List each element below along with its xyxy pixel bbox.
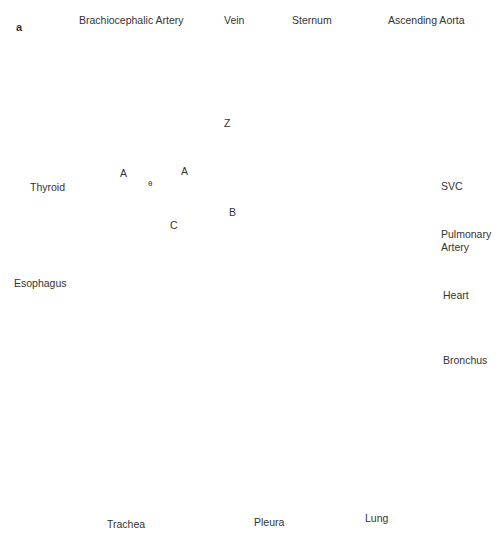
bone	[113, 334, 121, 342]
skin-bottom	[78, 400, 432, 470]
leader-lines	[65, 30, 441, 516]
bone	[257, 373, 297, 397]
chest-wall-muscle	[210, 90, 432, 190]
thyroid	[85, 196, 138, 216]
bone	[302, 376, 342, 404]
bone	[254, 406, 290, 430]
bone	[316, 411, 356, 439]
vessel	[393, 283, 409, 301]
ascending-aorta	[286, 118, 432, 200]
label-heart: Heart	[443, 289, 469, 301]
neck-muscle	[78, 220, 255, 300]
fascia-line	[150, 400, 432, 440]
brachiocephalic-artery	[196, 204, 220, 224]
vein	[249, 178, 267, 202]
pleura	[284, 310, 432, 345]
label-theta: θ	[148, 178, 152, 190]
label-thyroid: Thyroid	[30, 181, 65, 193]
anatomy-diagram	[0, 0, 500, 533]
label-c: C	[170, 219, 178, 231]
heart	[388, 232, 432, 295]
label-sternum: Sternum	[292, 14, 332, 26]
vessel	[277, 291, 299, 313]
label-svc: SVC	[441, 180, 463, 192]
esophagus	[78, 264, 148, 280]
label-ascending-aorta: Ascending Aorta	[388, 14, 464, 26]
label-esophagus: Esophagus	[14, 277, 67, 289]
small-vessel	[132, 196, 142, 204]
small-vessel	[96, 256, 104, 264]
label-pleura: Pleura	[254, 516, 284, 528]
label-z-axis: Z	[224, 117, 230, 129]
panel-label: a	[16, 21, 22, 33]
bronchus	[323, 282, 383, 308]
label-m: M	[230, 259, 239, 271]
label-trachea: Trachea	[107, 518, 145, 530]
label-b: B	[229, 206, 236, 218]
back-muscle	[78, 385, 432, 466]
bone	[383, 406, 427, 434]
bone	[360, 364, 400, 400]
label-bronchus: Bronchus	[443, 354, 487, 366]
label-brachiocephalic-artery: Brachiocephalic Artery	[79, 14, 183, 26]
label-lung: Lung	[365, 512, 388, 524]
bone	[192, 387, 228, 413]
rib-bone	[369, 100, 420, 122]
soft-tissue	[78, 52, 432, 470]
bone	[123, 340, 163, 360]
back-muscle-upper	[78, 378, 180, 401]
bone	[78, 310, 114, 334]
label-pulmonary-artery-2: Artery	[441, 241, 469, 253]
bone	[78, 337, 114, 361]
pulmonary-artery	[324, 251, 380, 275]
needle	[82, 125, 228, 262]
bone	[207, 345, 251, 373]
label-vein: Vein	[224, 14, 244, 26]
svc	[240, 190, 432, 245]
pulmonary-artery-lumen	[332, 255, 372, 271]
target-m	[209, 246, 247, 278]
label-pulmonary-artery-1: Pulmonary	[441, 228, 491, 240]
diagram-frame	[78, 42, 432, 504]
label-a-left: A	[120, 167, 127, 179]
label-a-top: A	[181, 165, 188, 177]
skin-top	[78, 52, 432, 182]
sternum-bone	[200, 153, 290, 190]
bone	[177, 356, 217, 384]
